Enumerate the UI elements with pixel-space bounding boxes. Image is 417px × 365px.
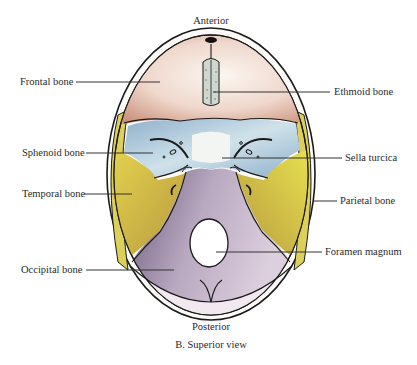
- label-sella-turcica: Sella turcica: [345, 152, 397, 164]
- label-occipital-bone: Occipital bone: [21, 264, 83, 276]
- label-foramen-magnum: Foramen magnum: [325, 246, 402, 258]
- label-frontal-bone: Frontal bone: [20, 76, 73, 88]
- skull-superior-view-figure: Anterior Posterior B. Superior view Fron…: [0, 0, 417, 365]
- anterior-label: Anterior: [151, 15, 271, 27]
- anterior-notch-mark: [205, 37, 217, 43]
- label-ethmoid-bone: Ethmoid bone: [334, 86, 393, 98]
- foramen-magnum-shape: [190, 219, 228, 267]
- posterior-label: Posterior: [151, 321, 271, 333]
- label-parietal-bone: Parietal bone: [340, 195, 395, 207]
- ethmoid-bone-shape: [203, 59, 219, 106]
- label-temporal-bone: Temporal bone: [22, 188, 85, 200]
- label-sphenoid-bone: Sphenoid bone: [22, 147, 85, 159]
- skull-diagram: [0, 0, 417, 365]
- figure-caption: B. Superior view: [111, 339, 311, 351]
